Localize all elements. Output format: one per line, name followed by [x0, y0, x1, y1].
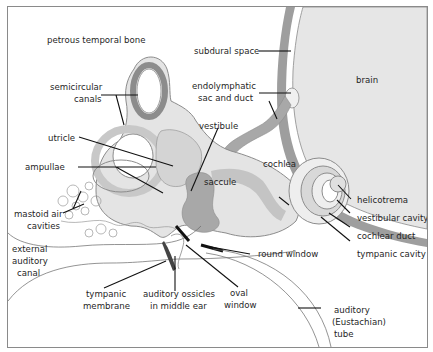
eustachian-tube-wall-2: [213, 249, 331, 347]
label-subdural-space: subdural space: [194, 46, 259, 56]
diagram-frame: petrous temporal bone subdural space bra…: [7, 6, 428, 348]
label-brain: brain: [356, 75, 378, 85]
label-semicircular-canals: semicircular: [50, 82, 103, 92]
label-tympanic-cavity: tympanic cavity: [357, 249, 426, 259]
label-auditory-ossicles-2: in middle ear: [150, 301, 207, 311]
label-semicircular-canals-2: canals: [74, 94, 102, 104]
label-cochlea: cochlea: [263, 159, 296, 169]
label-round-window: round window: [258, 249, 318, 259]
label-saccule: saccule: [204, 177, 236, 187]
semicircular-canal-posterior-inner: [113, 134, 153, 178]
label-vestibular-cavity: vestibular cavity: [357, 213, 427, 223]
label-petrous-temporal-bone: petrous temporal bone: [47, 35, 145, 45]
label-vestibule: vestibule: [199, 121, 238, 131]
label-cochlear-duct: cochlear duct: [357, 231, 416, 241]
helicotrema-circle: [330, 176, 346, 192]
label-external-2: auditory: [12, 256, 48, 266]
label-helicotrema: helicotrema: [357, 195, 408, 205]
label-utricle: utricle: [48, 133, 75, 143]
label-eustachian: auditory: [334, 305, 370, 315]
semicircular-canal-superior-inner: [137, 69, 161, 113]
label-eustachian-3: tube: [334, 329, 354, 339]
label-oval-window-2: window: [224, 300, 257, 310]
label-oval-window: oval: [230, 288, 248, 298]
tympanic-membrane: [162, 241, 176, 271]
label-ampullae: ampullae: [25, 162, 65, 172]
label-auditory-ossicles: auditory ossicles: [143, 289, 216, 299]
label-external-3: canal: [17, 268, 40, 278]
label-mastoid-air-2: cavities: [27, 221, 61, 231]
inner-ear-diagram: petrous temporal bone subdural space bra…: [8, 7, 427, 347]
cochlea: [289, 158, 349, 224]
label-tympanic-membrane: tympanic: [86, 289, 126, 299]
label-eustachian-2: (Eustachian): [332, 317, 386, 327]
label-external: external: [12, 244, 47, 254]
label-endolymphatic-2: sac and duct: [198, 93, 254, 103]
eustachian-tube-wall-1: [206, 253, 319, 347]
label-mastoid-air: mastoid air: [14, 209, 63, 219]
label-tympanic-membrane-2: membrane: [83, 301, 130, 311]
label-endolymphatic: endolymphatic: [192, 81, 256, 91]
